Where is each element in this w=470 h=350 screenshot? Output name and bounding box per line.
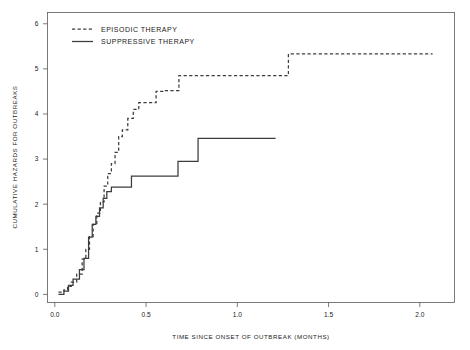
y-tick-label: 6	[35, 20, 39, 27]
x-axis-title: TIME SINCE ONSET OF OUTBREAK (MONTHS)	[172, 333, 329, 340]
legend-label: SUPPRESSIVE THERAPY	[101, 38, 195, 45]
y-tick-label: 0	[35, 291, 39, 298]
x-tick-label: 0.5	[141, 311, 150, 318]
chart-figure: 0123456 0.00.51.01.52.0 CUMULATIVE HAZAR…	[0, 0, 470, 350]
x-tick-label: 1.5	[324, 311, 333, 318]
figure-background	[0, 0, 470, 350]
x-tick-label: 0.0	[50, 311, 59, 318]
y-axis-title: CUMULATIVE HAZARDS FOR OUTBREAKS	[11, 86, 18, 229]
cumulative-hazard-plot: 0123456 0.00.51.01.52.0 CUMULATIVE HAZAR…	[0, 0, 470, 350]
y-tick-label: 2	[35, 201, 39, 208]
y-tick-label: 1	[35, 246, 39, 253]
legend-label: EPISODIC THERAPY	[101, 26, 177, 33]
x-tick-label: 1.0	[233, 311, 242, 318]
y-tick-label: 3	[35, 155, 39, 162]
y-tick-label: 5	[35, 65, 39, 72]
y-tick-label: 4	[35, 110, 39, 117]
x-tick-label: 2.0	[415, 311, 424, 318]
